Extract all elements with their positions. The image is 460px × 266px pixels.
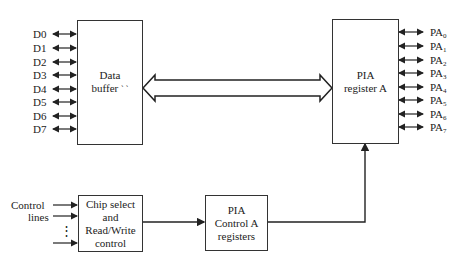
pia-control-label-3: registers bbox=[215, 230, 259, 243]
label-d0: D0 bbox=[33, 29, 46, 40]
control-lines-label-2: lines bbox=[28, 212, 49, 223]
pia-register-label-2: register A bbox=[344, 82, 387, 95]
data-bus-arrows bbox=[53, 34, 76, 129]
control-lines-label-1: Control bbox=[11, 200, 45, 211]
pia-control-a-block: PIA Control A registers bbox=[205, 195, 268, 251]
port-a-arrows bbox=[399, 32, 423, 127]
chip-select-label-3: Read/Write bbox=[85, 224, 135, 237]
label-d4: D4 bbox=[33, 84, 46, 95]
label-d6: D6 bbox=[33, 111, 46, 122]
chip-select-label-2: and bbox=[85, 211, 135, 224]
label-d1: D1 bbox=[33, 43, 46, 54]
internal-bus-arrow bbox=[143, 75, 332, 101]
label-pa7: PA7 bbox=[430, 122, 447, 137]
pia-register-a-block: PIA register A bbox=[332, 19, 399, 144]
pia-control-label-2: Control A bbox=[215, 217, 259, 230]
chip-select-label-4: control bbox=[85, 237, 135, 250]
label-d2: D2 bbox=[33, 57, 46, 68]
label-d7: D7 bbox=[33, 124, 46, 135]
control-lines-ellipsis: ⋮ bbox=[60, 224, 73, 237]
data-buffer-label-1: Data bbox=[92, 69, 129, 82]
pia-register-label-1: PIA bbox=[344, 69, 387, 82]
label-d5: D5 bbox=[33, 97, 46, 108]
control-to-register-arrow bbox=[267, 144, 365, 222]
data-buffer-label-2: buffer ` ` bbox=[92, 82, 129, 96]
data-buffer-block: Data buffer ` ` bbox=[77, 20, 143, 145]
pia-control-label-1: PIA bbox=[215, 204, 259, 217]
chip-select-label-1: Chip select bbox=[85, 198, 135, 211]
label-d3: D3 bbox=[33, 70, 46, 81]
chip-select-block: Chip select and Read/Write control bbox=[78, 195, 143, 252]
